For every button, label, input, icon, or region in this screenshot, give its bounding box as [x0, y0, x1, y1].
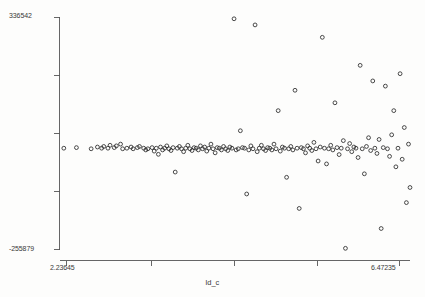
- data-point: [377, 138, 381, 142]
- data-point-group: [62, 17, 412, 250]
- data-point: [392, 109, 396, 113]
- scatter-plot-figure: 336542 -255879 2.23645 6.47235 ld_c: [0, 0, 425, 297]
- plot-canvas: [0, 0, 425, 297]
- data-point: [358, 63, 362, 67]
- data-point: [274, 147, 278, 151]
- data-point: [209, 142, 213, 146]
- data-point: [400, 157, 404, 161]
- data-point: [337, 153, 341, 157]
- data-point: [287, 147, 291, 151]
- data-point: [381, 146, 385, 150]
- data-point: [405, 201, 409, 205]
- data-point: [386, 147, 390, 151]
- data-point: [108, 143, 112, 147]
- data-point: [369, 149, 373, 153]
- data-point: [314, 147, 318, 151]
- y-axis-max-label: 336542: [9, 12, 32, 19]
- data-point: [295, 146, 299, 150]
- data-point: [329, 143, 333, 147]
- data-point: [394, 165, 398, 169]
- data-point: [407, 142, 411, 146]
- data-point: [156, 152, 160, 156]
- x-axis-max-label: 6.47235: [371, 264, 396, 271]
- data-point: [346, 147, 350, 151]
- data-point: [62, 146, 66, 150]
- data-point: [171, 146, 175, 150]
- data-point: [408, 186, 412, 190]
- data-point: [238, 129, 242, 133]
- data-point: [390, 133, 394, 137]
- data-point: [278, 149, 282, 153]
- data-point: [272, 142, 276, 146]
- data-point: [402, 126, 406, 130]
- data-point: [251, 147, 255, 151]
- data-point: [245, 192, 249, 196]
- data-point: [350, 150, 354, 154]
- data-point: [308, 146, 312, 150]
- data-point: [291, 148, 295, 152]
- data-point: [310, 149, 314, 153]
- data-point: [335, 146, 339, 150]
- data-point: [316, 159, 320, 163]
- data-point: [211, 147, 215, 151]
- data-point: [125, 146, 129, 150]
- data-point: [333, 101, 337, 105]
- data-point: [331, 148, 335, 152]
- x-axis-min-label: 2.23645: [50, 264, 75, 271]
- data-point: [318, 145, 322, 149]
- x-axis-title: ld_c: [0, 278, 425, 287]
- data-point: [379, 227, 383, 231]
- data-point: [297, 207, 301, 211]
- data-point: [232, 17, 236, 21]
- data-point: [312, 140, 316, 144]
- data-point: [375, 152, 379, 156]
- data-point: [207, 146, 211, 150]
- data-point: [348, 142, 352, 146]
- data-point: [285, 175, 289, 179]
- data-point: [339, 146, 343, 150]
- data-point: [396, 146, 400, 150]
- data-point: [388, 154, 392, 158]
- data-point: [154, 146, 158, 150]
- data-point: [341, 139, 345, 143]
- data-point: [173, 170, 177, 174]
- data-point: [320, 35, 324, 39]
- data-point: [365, 145, 369, 149]
- data-point: [325, 162, 329, 166]
- data-point: [344, 246, 348, 250]
- data-point: [293, 88, 297, 92]
- data-point: [398, 72, 402, 76]
- data-point: [253, 23, 257, 27]
- data-point: [121, 147, 125, 151]
- data-point: [373, 146, 377, 150]
- data-point: [304, 151, 308, 155]
- data-point: [356, 156, 360, 160]
- data-point: [96, 145, 100, 149]
- data-point: [306, 144, 310, 148]
- data-point: [247, 148, 251, 152]
- data-point: [371, 79, 375, 83]
- data-point: [360, 147, 364, 151]
- data-point: [222, 145, 226, 149]
- data-point: [89, 147, 93, 151]
- data-point: [383, 84, 387, 88]
- data-point: [276, 109, 280, 113]
- y-axis-min-label: -255879: [9, 245, 34, 252]
- axes-group: [54, 17, 410, 266]
- data-point: [213, 151, 217, 155]
- data-point: [367, 136, 371, 140]
- data-point: [323, 146, 327, 150]
- data-point: [75, 146, 79, 150]
- data-point: [119, 142, 123, 146]
- data-point: [362, 172, 366, 176]
